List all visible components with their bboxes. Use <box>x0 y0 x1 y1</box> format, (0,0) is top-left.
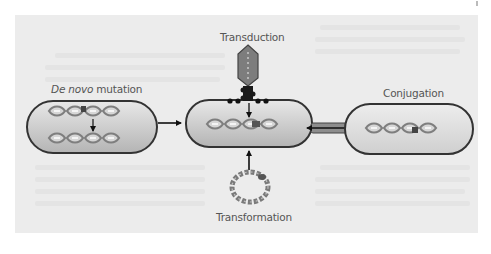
donor-gene-marker <box>412 127 418 133</box>
integrated-dna-marker <box>252 121 260 127</box>
de-novo-mutation-cell <box>27 101 157 153</box>
de-novo-mutation-label: De novo mutation <box>51 83 142 95</box>
phage-head <box>238 45 258 86</box>
mutation-text: mutation <box>93 83 142 95</box>
donor-cell <box>345 104 473 154</box>
plasmid-ring <box>232 172 268 202</box>
de-novo-italic-text: De novo <box>51 83 93 95</box>
transduction-label: Transduction <box>220 31 285 43</box>
conjugation-label: Conjugation <box>383 87 444 99</box>
bacteriophage <box>238 45 258 101</box>
mutation-marker <box>81 106 86 112</box>
transformation-label: Transformation <box>216 211 292 223</box>
